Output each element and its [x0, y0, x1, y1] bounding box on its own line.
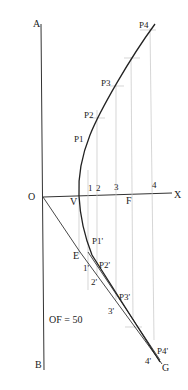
label-v: V [70, 196, 78, 207]
label-p1-prime: P1' [92, 236, 104, 246]
parabola-diagram: A B O X V F E G 1 2 3 4 P1 P2 P3 P4 P1' … [0, 0, 188, 390]
diagonal-eg [80, 252, 162, 364]
label-div-2: 2 [96, 183, 101, 193]
label-p3-prime: P3' [119, 292, 131, 302]
label-p4: P4 [139, 20, 149, 30]
label-p2: P2 [84, 110, 94, 120]
label-e: E [73, 250, 79, 261]
label-a: A [33, 18, 41, 29]
label-4-prime: 4' [145, 356, 152, 366]
label-div-4: 4 [152, 180, 157, 190]
annotation-of: OF = 50 [49, 314, 82, 325]
label-o: O [28, 191, 35, 202]
label-f: F [126, 195, 132, 206]
label-2-prime: 2' [91, 277, 98, 287]
label-p2-prime: P2' [99, 260, 111, 270]
label-p1: P1 [74, 134, 84, 144]
parabola-curve [79, 24, 160, 362]
axis-ox [43, 193, 172, 197]
label-1-prime: 1' [83, 263, 90, 273]
label-div-3: 3 [114, 182, 119, 192]
label-div-1: 1 [88, 183, 93, 193]
label-b: B [35, 359, 42, 370]
label-g: G [162, 362, 169, 373]
label-p4-prime: P4' [157, 346, 169, 356]
label-p3: P3 [101, 78, 111, 88]
label-3-prime: 3' [108, 306, 115, 316]
label-x: X [174, 189, 182, 200]
